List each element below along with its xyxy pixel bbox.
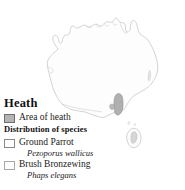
legend-subheading-distribution: Distribution of species <box>4 124 121 135</box>
species-scientific-name-ground-parrot: Pezoporus wallicus <box>27 148 93 158</box>
heath-distribution-map-figure: Heath Area of heath Distribution of spec… <box>0 0 185 190</box>
species-scientific-name-brush-bronzewing: Phaps elegans <box>27 170 91 180</box>
legend-row-area-of-heath: Area of heath <box>3 112 121 123</box>
map-legend: Heath Area of heath Distribution of spec… <box>3 96 121 181</box>
legend-label-brush-bronzewing: Brush Bronzewing Phaps elegans <box>19 159 91 180</box>
legend-row-brush-bronzewing: Brush Bronzewing Phaps elegans <box>3 159 121 180</box>
species-common-name-ground-parrot: Ground Parrot <box>19 137 74 147</box>
legend-title: Heath <box>4 96 121 110</box>
dotted-swatch-icon <box>4 161 15 170</box>
filled-gray-swatch-icon <box>4 114 15 123</box>
legend-label-area-of-heath: Area of heath <box>19 112 71 123</box>
species-common-name-brush-bronzewing: Brush Bronzewing <box>19 159 91 169</box>
bass-strait-islands <box>128 122 136 126</box>
legend-row-ground-parrot: Ground Parrot Pezoporus wallicus <box>3 137 121 158</box>
open-white-swatch-icon <box>4 139 15 148</box>
legend-label-ground-parrot: Ground Parrot Pezoporus wallicus <box>19 137 93 158</box>
